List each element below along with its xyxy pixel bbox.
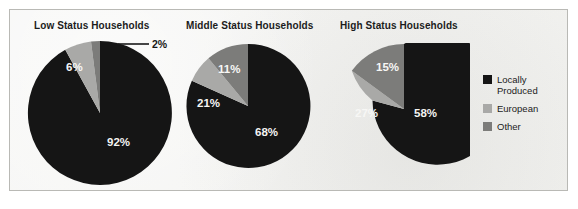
- pie-chart-middle-status: 68% 21% 11%: [185, 43, 311, 169]
- legend-label-other: Other: [497, 121, 521, 132]
- pie-svg-high-status: 58% 27% 15%: [338, 43, 470, 175]
- chart-title-high-status: High Status Households: [340, 20, 458, 32]
- legend-item-locally-produced: Locally Produced: [483, 74, 565, 96]
- legend-item-other: Other: [483, 121, 565, 132]
- pie-svg-middle-status: 68% 21% 11%: [185, 43, 311, 169]
- chart-title-middle-status: Middle Status Households: [186, 20, 313, 32]
- pie-label-other: 11%: [218, 63, 240, 75]
- pie-label-european: 21%: [197, 97, 220, 109]
- legend-swatch-locally-produced: [483, 75, 492, 84]
- legend-item-european: European: [483, 103, 565, 114]
- legend-swatch-european: [483, 104, 492, 113]
- pie-label-other-callout: 2%: [152, 38, 168, 50]
- pie-chart-high-status: 58% 27% 15%: [338, 43, 470, 175]
- legend-label-european: European: [497, 103, 538, 114]
- pie-label-other: 15%: [376, 61, 399, 73]
- legend-label-locally-produced: Locally Produced: [497, 74, 538, 96]
- legend-swatch-other: [483, 122, 492, 131]
- chart-legend: Locally Produced European Other: [483, 74, 565, 139]
- pie-label-locally-produced: 58%: [414, 107, 437, 119]
- figure-panel: Low Status Households 92% 6% 2% Middle S…: [0, 0, 578, 209]
- pie-label-locally-produced: 68%: [255, 126, 278, 138]
- pie-label-european: 27%: [355, 107, 378, 119]
